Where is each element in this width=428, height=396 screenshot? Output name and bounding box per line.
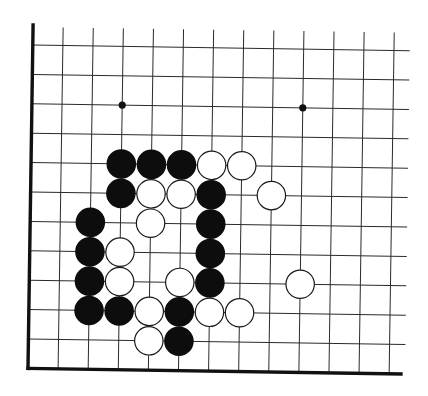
black-stone: [74, 295, 104, 325]
black-stone: [195, 238, 225, 268]
grid-vertical-line: [359, 32, 364, 373]
white-stone: [225, 298, 254, 327]
grid-vertical-line: [389, 32, 394, 373]
board-edge-left: [28, 25, 33, 368]
grid-vertical-line: [58, 27, 63, 368]
black-stone: [75, 237, 105, 267]
black-stone: [164, 297, 194, 327]
white-stone: [227, 151, 256, 180]
white-stone: [167, 180, 196, 209]
white-stone: [257, 181, 286, 210]
black-stone: [196, 180, 226, 210]
white-stone: [135, 297, 164, 326]
white-stone: [195, 298, 224, 327]
black-stone: [106, 178, 136, 208]
go-board: [0, 0, 428, 396]
white-stone: [286, 270, 315, 299]
grid-horizontal-line: [28, 339, 405, 345]
white-stone: [106, 238, 135, 267]
black-stone: [195, 268, 225, 298]
black-stone: [106, 149, 136, 179]
black-stone: [104, 296, 134, 326]
black-stone: [74, 266, 104, 296]
grid-horizontal-line: [31, 133, 408, 139]
black-stone: [164, 326, 194, 356]
black-stone: [167, 150, 197, 180]
star-point-icon: [299, 104, 306, 111]
grid-horizontal-line: [32, 74, 409, 80]
go-board-diagram: [0, 0, 428, 396]
white-stone: [134, 326, 163, 355]
grid-vertical-line: [329, 32, 334, 373]
black-stone: [75, 207, 105, 237]
grid-horizontal-line: [32, 104, 409, 110]
white-stone: [105, 267, 134, 296]
grid-horizontal-line: [33, 45, 410, 51]
board-edge-bottom: [28, 368, 401, 374]
grid-vertical-line: [299, 31, 304, 372]
black-stone: [196, 209, 226, 239]
white-stone: [197, 151, 226, 180]
star-point-icon: [119, 102, 126, 109]
white-stone: [137, 179, 166, 208]
black-stone: [136, 149, 166, 179]
white-stone: [136, 209, 165, 238]
white-stone: [165, 268, 194, 297]
